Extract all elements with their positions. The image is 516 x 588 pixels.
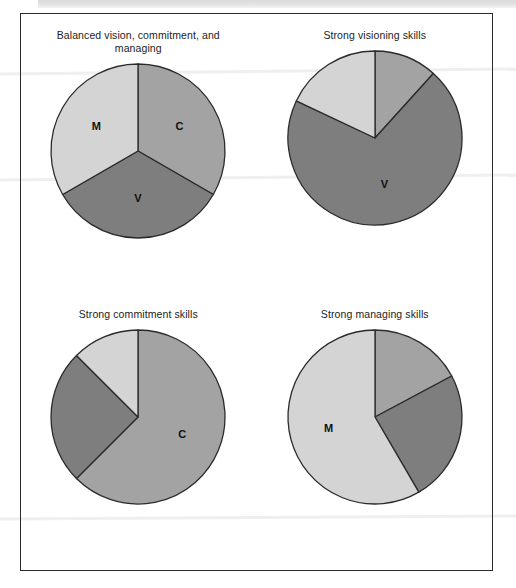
scan-artifact-top-band (38, 0, 516, 8)
pie-chart-panel-strong-commitment: Strong commitment skills C (20, 292, 257, 571)
pie-chart-panel-balanced: Balanced vision, commitment, and managin… (20, 13, 257, 292)
pie-slice-label-v: V (380, 178, 388, 190)
pie-svg: M (285, 327, 465, 507)
pie-chart-balanced: CVM (48, 61, 228, 241)
pie-chart-panel-strong-visioning: Strong visioning skills V (257, 13, 494, 292)
pie-slice-label-m: M (92, 120, 101, 132)
pie-slice-label-c: C (179, 428, 187, 440)
pie-svg: C (48, 327, 228, 507)
pie-chart-strong-visioning: V (285, 48, 465, 228)
pie-chart-strong-commitment: C (48, 327, 228, 507)
pie-slice-label-v: V (135, 192, 143, 204)
pie-chart-title: Balanced vision, commitment, and managin… (43, 29, 233, 55)
pie-svg: CVM (48, 61, 228, 241)
pie-chart-title: Strong commitment skills (43, 308, 233, 321)
pie-slice-label-c: C (176, 120, 184, 132)
pie-chart-grid: Balanced vision, commitment, and managin… (20, 13, 493, 571)
pie-chart-title: Strong managing skills (280, 308, 470, 321)
pie-chart-title: Strong visioning skills (280, 29, 470, 42)
pie-chart-panel-strong-managing: Strong managing skills M (257, 292, 494, 571)
pie-slice-label-m: M (324, 422, 333, 434)
pie-chart-strong-managing: M (285, 327, 465, 507)
pie-svg: V (285, 48, 465, 228)
